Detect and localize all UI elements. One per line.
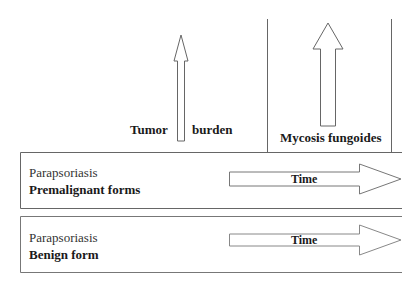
burden-label: burden: [192, 123, 232, 136]
tumor-label: Tumor: [130, 123, 168, 136]
premalignant-box-title: Parapsoriasis: [29, 166, 98, 179]
mycosis-fungoides-label: Mycosis fungoides: [280, 131, 381, 144]
benign-box-title: Parapsoriasis: [29, 231, 98, 244]
mycosis-fungoides-arrow: [313, 23, 343, 126]
premalignant-box-subtitle: Premalignant forms: [29, 183, 140, 196]
tumor-burden-arrow: [174, 35, 188, 141]
benign-box-subtitle: Benign form: [29, 248, 99, 261]
premalignant-time-label: Time: [291, 173, 317, 185]
benign-time-label: Time: [291, 234, 317, 246]
